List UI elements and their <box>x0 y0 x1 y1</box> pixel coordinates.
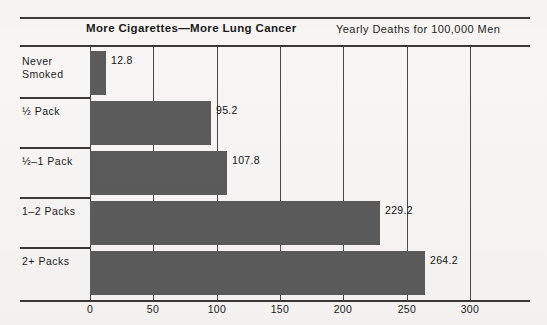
bar <box>90 51 106 95</box>
x-tick-label-200: 200 <box>334 303 353 315</box>
bar-row: 2+ Packs264.2 <box>0 247 547 297</box>
x-tick-label-0: 0 <box>87 303 93 315</box>
x-tick-label-50: 50 <box>147 303 159 315</box>
bar <box>90 201 380 245</box>
page-title: More Cigarettes—More Lung Cancer <box>86 22 297 34</box>
bar <box>90 151 227 195</box>
axis-baseline <box>20 300 530 302</box>
category-label: 1–2 Packs <box>22 205 76 218</box>
bar-row: Never Smoked12.8 <box>0 47 547 97</box>
heading-band: More Cigarettes—More Lung Cancer Yearly … <box>20 20 530 44</box>
bar <box>90 101 211 145</box>
bar-row: ½–1 Pack107.8 <box>0 147 547 197</box>
row-separator <box>20 97 90 99</box>
row-separator <box>20 147 90 149</box>
bar-row: ½ Pack95.2 <box>0 97 547 147</box>
x-tick-label-100: 100 <box>208 303 227 315</box>
category-label: ½ Pack <box>22 105 60 118</box>
category-label: 2+ Packs <box>22 255 69 268</box>
x-axis-ticks: 050100150200250300 <box>0 303 547 321</box>
bar-value-label: 264.2 <box>430 254 458 266</box>
bar-rows: Never Smoked12.8½ Pack95.2½–1 Pack107.81… <box>0 47 547 300</box>
top-rule <box>20 17 530 19</box>
category-label: ½–1 Pack <box>22 155 73 168</box>
bar-value-label: 229.2 <box>385 204 413 216</box>
x-tick-label-300: 300 <box>461 303 480 315</box>
chart-page: More Cigarettes—More Lung Cancer Yearly … <box>0 0 547 325</box>
bar-row: 1–2 Packs229.2 <box>0 197 547 247</box>
bar-value-label: 12.8 <box>111 54 133 66</box>
chart-plot-area: Never Smoked12.8½ Pack95.2½–1 Pack107.81… <box>0 47 547 300</box>
bar-value-label: 107.8 <box>232 154 260 166</box>
chart-subtitle: Yearly Deaths for 100,000 Men <box>336 23 500 35</box>
bar-value-label: 95.2 <box>216 104 238 116</box>
x-tick-label-250: 250 <box>398 303 417 315</box>
x-tick-label-150: 150 <box>271 303 290 315</box>
bar <box>90 251 425 295</box>
row-separator <box>20 247 90 249</box>
category-label: Never Smoked <box>22 55 64 81</box>
row-separator <box>20 197 90 199</box>
